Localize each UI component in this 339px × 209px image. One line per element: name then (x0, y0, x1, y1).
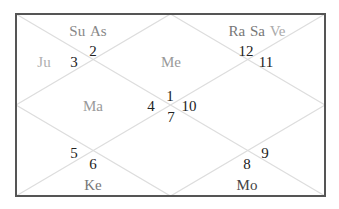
planet-as: As (90, 23, 107, 39)
planet-mo: Mo (237, 177, 258, 193)
house-number-2: 2 (89, 44, 97, 59)
planet-group-house-12: Ra Sa Ve (228, 24, 286, 39)
planet-group-house-4: Ma (83, 99, 104, 114)
planet-sa: Sa (250, 23, 265, 39)
house-number-12: 12 (239, 44, 254, 59)
birth-chart: 123456789101112 Su AsJuMeRa Sa VeMaKeMo (0, 0, 339, 209)
planet-group-house-3: Ju (37, 55, 51, 70)
planet-ju: Ju (37, 54, 50, 70)
house-number-1: 1 (166, 89, 174, 104)
house-number-7: 7 (167, 110, 175, 125)
planet-ke: Ke (84, 177, 102, 193)
house-number-5: 5 (70, 146, 78, 161)
house-number-9: 9 (261, 146, 269, 161)
chart-grid (0, 0, 339, 209)
house-number-10: 10 (182, 99, 197, 114)
planet-su: Su (69, 23, 85, 39)
planet-me: Me (161, 54, 181, 70)
planet-group-house-1: Me (161, 55, 182, 70)
house-number-11: 11 (259, 55, 273, 70)
planet-group-house-2: Su As (69, 24, 107, 39)
planet-group-house-8: Mo (236, 178, 258, 193)
house-number-8: 8 (243, 157, 251, 172)
house-number-6: 6 (89, 157, 97, 172)
planet-ma: Ma (83, 98, 103, 114)
house-number-4: 4 (147, 99, 155, 114)
house-number-3: 3 (70, 55, 78, 70)
planet-group-house-6: Ke (84, 178, 103, 193)
planet-ra: Ra (229, 23, 246, 39)
planet-ve: Ve (270, 23, 286, 39)
